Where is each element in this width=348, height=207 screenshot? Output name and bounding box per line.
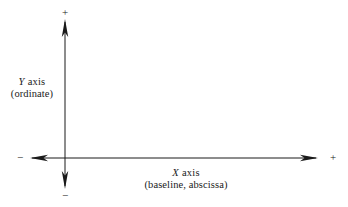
x-axis-label-line-1: Xaxis: [120, 167, 252, 179]
x-axis-variable: X: [172, 167, 179, 178]
y-axis-word: axis: [28, 76, 46, 87]
y-axis-label-line-1: Yaxis: [0, 76, 64, 88]
x-axis-positive-sign: +: [325, 152, 341, 163]
y-axis-label-line-2: (ordinate): [0, 88, 64, 100]
axes-diagram-figure: + − − + Yaxis (ordinate) Xaxis (baseline…: [0, 0, 348, 207]
y-axis-positive-sign: +: [57, 7, 73, 18]
y-axis-variable: Y: [19, 76, 25, 87]
y-axis-label: Yaxis (ordinate): [0, 76, 64, 100]
x-axis-label-line-2: (baseline, abscissa): [120, 179, 252, 191]
x-axis-word: axis: [182, 167, 200, 178]
x-axis-label: Xaxis (baseline, abscissa): [120, 167, 252, 191]
x-axis-negative-sign: −: [12, 152, 28, 163]
y-axis-negative-sign: −: [57, 190, 73, 201]
